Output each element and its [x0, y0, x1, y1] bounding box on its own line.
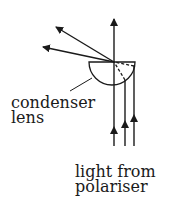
label-leader-line: [70, 78, 92, 91]
refracted-rays: [43, 19, 114, 62]
ray-out-upper-left: [56, 27, 114, 62]
condenser-label-line2: lens: [11, 108, 44, 127]
ray-out-lower-left: [43, 47, 114, 62]
source-label-line2: polariser: [75, 177, 148, 196]
condenser-lens-diagram: condenser lens light from polariser: [0, 0, 176, 210]
arrowhead-up-icon: [110, 126, 118, 134]
arrowhead-up-icon: [121, 120, 129, 128]
arrowhead-up-icon: [130, 114, 138, 122]
refraction-dashes: [114, 62, 134, 80]
